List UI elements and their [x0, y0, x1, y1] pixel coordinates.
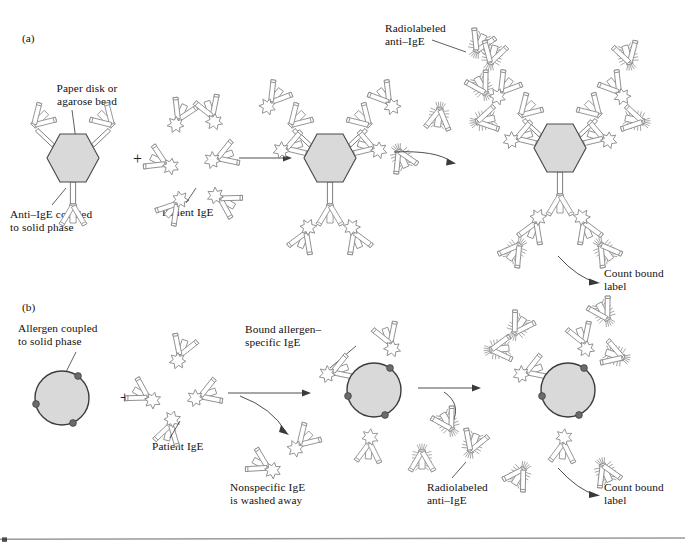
- panel-b-stage5: [482, 294, 635, 494]
- footer-rule: [0, 537, 685, 541]
- panel-a-plus-operator: +: [133, 150, 142, 167]
- panel-a-stage4-tracer: [383, 26, 502, 176]
- panel-a-stage2-free-ige: [142, 93, 245, 228]
- figure-canvas: (a) Paper disk or agarose bead Anti–IgE …: [0, 0, 685, 548]
- panel-b-stage2-free-ige: [123, 332, 224, 448]
- panel-a-stage5: [467, 39, 654, 270]
- panel-b-stage4-tracer: [408, 404, 490, 472]
- panel-b-stage1: [33, 371, 89, 426]
- footer-rule-line: [0, 538, 685, 539]
- panel-a-readout-arrow: [558, 256, 600, 286]
- panel-b-stage3: [315, 320, 408, 464]
- panel-b-readout-arrow: [558, 468, 600, 498]
- panel-b-arrow-2: [418, 385, 481, 392]
- footer-rule-marker: [2, 537, 7, 541]
- panel-b-arrow-1: [228, 390, 311, 397]
- diagram-graphics: +: [0, 0, 685, 548]
- panel-b-wash-arrow: [240, 396, 289, 435]
- panel-a-stage3: [251, 78, 408, 257]
